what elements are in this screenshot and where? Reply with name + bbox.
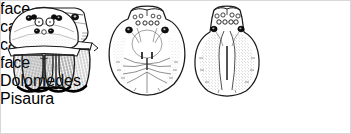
pisaura-carapace-drawing [188,2,266,98]
cephalic-pale-patch [132,30,162,58]
figure-pisaura-carapace [188,2,266,98]
figure-dolomedes-carapace [104,2,190,98]
anterior-eye-row [34,29,53,35]
figure-plate: face carapace carapace face Dolomedes Pi… [0,0,351,134]
dolomedes-carapace-drawing [104,2,190,98]
figure-pisaura-face [0,2,88,102]
pisaura-face-drawing [0,2,88,98]
fang-tip-right [92,43,98,51]
